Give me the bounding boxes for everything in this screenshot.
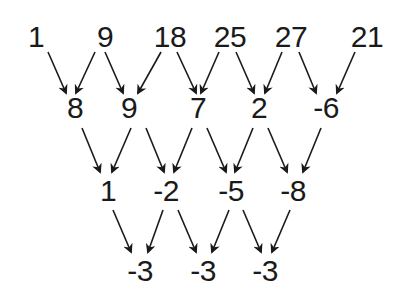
arrow-icon bbox=[146, 128, 164, 172]
arrow-icon bbox=[201, 52, 219, 93]
row-3-value: -5 bbox=[218, 176, 244, 206]
row-3-value: -8 bbox=[280, 176, 306, 206]
row-1-value: 21 bbox=[351, 22, 383, 52]
arrow-icon bbox=[148, 210, 163, 252]
row-2-value: 9 bbox=[121, 93, 137, 123]
row-2-value: 7 bbox=[190, 93, 206, 123]
arrow-icon bbox=[299, 52, 316, 93]
arrow-icon bbox=[82, 128, 100, 172]
arrow-icon bbox=[207, 128, 226, 172]
row-1-value: 25 bbox=[214, 22, 246, 52]
arrow-icon bbox=[337, 52, 355, 93]
arrow-icon bbox=[236, 52, 254, 93]
row-1-value: 27 bbox=[275, 22, 307, 52]
arrow-icon bbox=[235, 128, 253, 172]
row-4-value: -3 bbox=[127, 256, 153, 286]
difference-triangle-diagram: 19182527218972-61-2-5-8-3-3-3 bbox=[0, 0, 398, 299]
arrow-icon bbox=[177, 52, 196, 93]
row-2-value: 2 bbox=[251, 93, 267, 123]
row-3-value: 1 bbox=[100, 176, 116, 206]
row-2-value: -6 bbox=[313, 93, 339, 123]
row-1-value: 18 bbox=[154, 22, 186, 52]
arrow-icon bbox=[48, 52, 66, 93]
row-1-value: 1 bbox=[28, 22, 44, 52]
arrow-icon bbox=[303, 128, 321, 172]
row-4-value: -3 bbox=[190, 256, 216, 286]
arrow-icon bbox=[272, 210, 290, 252]
arrow-icon bbox=[105, 52, 123, 93]
arrow-icon bbox=[268, 128, 287, 172]
row-4-value: -3 bbox=[252, 256, 278, 286]
row-3-value: -2 bbox=[153, 176, 179, 206]
arrow-icon bbox=[265, 52, 282, 93]
arrow-icon bbox=[113, 210, 131, 252]
arrow-icon bbox=[243, 210, 261, 252]
arrow-icon bbox=[112, 128, 131, 172]
arrow-icon bbox=[76, 52, 95, 93]
arrow-icon bbox=[212, 210, 229, 252]
row-1-value: 9 bbox=[97, 22, 113, 52]
arrow-icon bbox=[178, 210, 196, 252]
row-2-value: 8 bbox=[67, 93, 83, 123]
arrows-group bbox=[48, 52, 355, 252]
arrow-icon bbox=[138, 52, 161, 93]
arrow-icon bbox=[174, 128, 192, 172]
